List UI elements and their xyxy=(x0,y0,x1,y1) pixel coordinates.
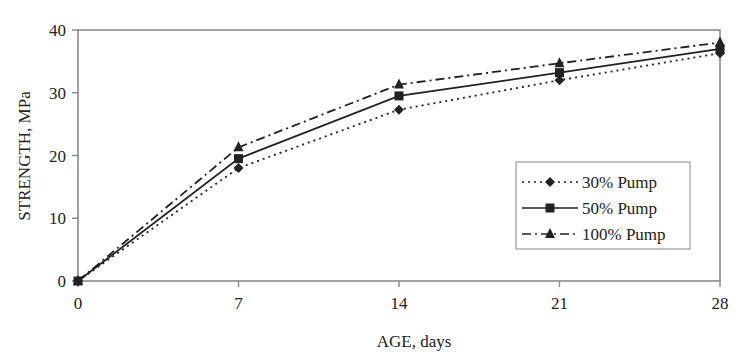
diamond-marker-icon xyxy=(234,163,244,173)
y-tick-label: 30 xyxy=(49,84,66,103)
triangle-marker-icon xyxy=(715,37,725,47)
square-marker-icon xyxy=(546,204,555,213)
square-marker-icon xyxy=(234,154,243,163)
legend: 30% Pump50% Pump100% Pump xyxy=(516,162,690,249)
y-axis-ticks: 010203040 xyxy=(49,21,78,291)
x-tick-label: 21 xyxy=(551,294,568,313)
square-marker-icon xyxy=(555,68,564,77)
strength-vs-age-chart: 010203040 07142128 STRENGTH, MPa AGE, da… xyxy=(0,0,743,356)
y-axis-title: STRENGTH, MPa xyxy=(15,91,34,221)
y-tick-label: 0 xyxy=(58,272,67,291)
x-tick-label: 0 xyxy=(74,294,83,313)
legend-label: 30% Pump xyxy=(582,173,657,192)
square-marker-icon xyxy=(395,91,404,100)
x-tick-label: 28 xyxy=(712,294,729,313)
diamond-marker-icon xyxy=(394,105,404,115)
legend-label: 100% Pump xyxy=(582,225,666,244)
x-axis-title: AGE, days xyxy=(377,332,452,351)
legend-label: 50% Pump xyxy=(582,199,657,218)
x-axis-ticks: 07142128 xyxy=(74,281,729,313)
x-tick-label: 7 xyxy=(234,294,243,313)
x-tick-label: 14 xyxy=(391,294,409,313)
y-tick-label: 20 xyxy=(49,147,66,166)
y-tick-label: 10 xyxy=(49,209,66,228)
y-tick-label: 40 xyxy=(49,21,66,40)
